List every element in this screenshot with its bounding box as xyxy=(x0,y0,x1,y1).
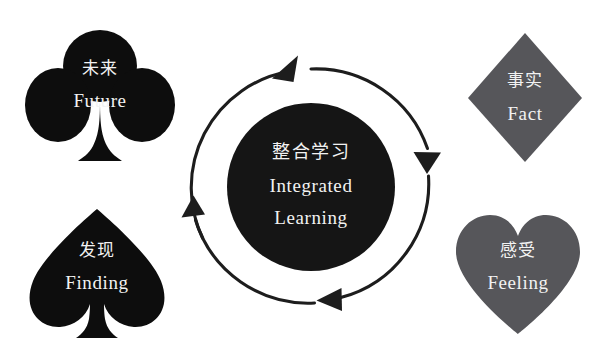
diagram-canvas: 整合学习 Integrated Learning 未来 Future 事实 Fa… xyxy=(0,0,613,351)
node-finding[interactable]: 发现 Finding xyxy=(30,209,165,338)
integrated-learning-diagram: 整合学习 Integrated Learning 未来 Future 事实 Fa… xyxy=(0,0,613,351)
node-fact-label-en: Fact xyxy=(507,103,542,124)
cycle-arrowhead-top xyxy=(272,56,298,83)
node-finding-label-en: Finding xyxy=(65,272,128,293)
node-fact-label-cn: 事实 xyxy=(507,70,544,90)
cycle-arrowhead-right xyxy=(414,152,442,174)
core-label-cn: 整合学习 xyxy=(272,141,350,162)
node-feeling-label-en: Feeling xyxy=(487,272,548,293)
node-finding-label-cn: 发现 xyxy=(79,240,116,260)
core-label-en-line1: Integrated xyxy=(269,175,352,196)
diamond-suit-icon xyxy=(468,33,582,162)
node-future-label-en: Future xyxy=(73,90,126,111)
node-future[interactable]: 未来 Future xyxy=(25,30,175,161)
cycle-arrowhead-bottom xyxy=(317,288,343,311)
cycle-arrowhead-left xyxy=(182,196,206,218)
node-fact[interactable]: 事实 Fact xyxy=(468,33,582,162)
core-label-en-line2: Learning xyxy=(274,207,347,228)
node-feeling-label-cn: 感受 xyxy=(500,240,537,260)
node-feeling[interactable]: 感受 Feeling xyxy=(456,215,580,334)
node-future-label-cn: 未来 xyxy=(82,58,119,78)
